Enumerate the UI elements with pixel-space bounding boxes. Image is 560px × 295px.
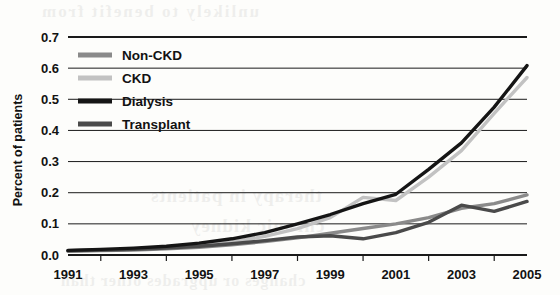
x-tick-label: 1993	[119, 267, 148, 282]
y-tick-label: 0.2	[41, 185, 59, 200]
legend-label-ckd: CKD	[122, 71, 151, 86]
y-axis-title: Percent of patients	[11, 94, 25, 207]
line-chart: 0.00.10.20.30.40.50.60.7 199119931995199…	[0, 0, 560, 295]
x-tick-label: 2001	[381, 267, 410, 282]
x-tick-label: 1995	[185, 267, 214, 282]
legend-label-transplant: Transplant	[122, 117, 191, 132]
legend-label-non-ckd: Non-CKD	[122, 48, 182, 63]
x-tick-label: 1991	[54, 267, 83, 282]
y-tick-label: 0.6	[41, 61, 59, 76]
chart-figure: unlikely to benefit from therapy in pati…	[0, 0, 560, 295]
x-tick-label: 1999	[316, 267, 345, 282]
legend-label-dialysis: Dialysis	[122, 94, 173, 109]
x-tick-label: 2003	[447, 267, 476, 282]
x-tick-labels-group: 19911993199519971999200120032005	[54, 267, 542, 282]
y-tick-label: 0.0	[41, 248, 59, 263]
x-tick-label: 2005	[513, 267, 542, 282]
y-tick-label: 0.3	[41, 154, 59, 169]
y-tick-label: 0.5	[41, 92, 59, 107]
y-tick-labels-group: 0.00.10.20.30.40.50.60.7	[41, 30, 60, 263]
chart-legend: Non-CKDCKDDialysisTransplant	[78, 48, 191, 132]
y-tick-label: 0.7	[41, 30, 59, 45]
y-tick-label: 0.4	[41, 123, 60, 138]
x-tick-label: 1997	[250, 267, 279, 282]
y-tick-label: 0.1	[41, 216, 59, 231]
